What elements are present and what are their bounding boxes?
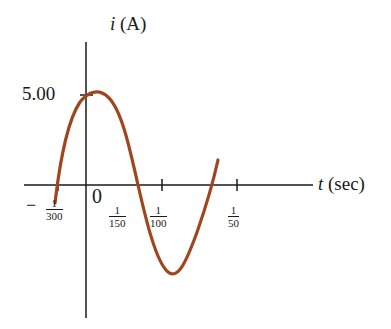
y-axis-unit: (A) xyxy=(120,13,146,34)
y-axis-var: i xyxy=(110,13,115,34)
x-axis-var: t xyxy=(318,173,323,194)
origin-label: 0 xyxy=(92,185,102,208)
x-axis-label: t (sec) xyxy=(318,173,365,195)
x-tick-label-1-150: 1 150 xyxy=(109,204,126,229)
x-tick-label-neg-1-300: 1 300 xyxy=(46,197,63,222)
plot-area xyxy=(0,0,391,329)
y-axis-label: i (A) xyxy=(110,13,146,35)
y-tick-label: 5.00 xyxy=(22,83,55,105)
neg-sign: − xyxy=(26,195,36,216)
current-curve xyxy=(55,92,218,274)
x-axis-unit: (sec) xyxy=(328,173,365,194)
x-tick-label-1-100: 1 100 xyxy=(150,204,167,229)
x-tick-label-1-50: 1 50 xyxy=(228,204,239,229)
